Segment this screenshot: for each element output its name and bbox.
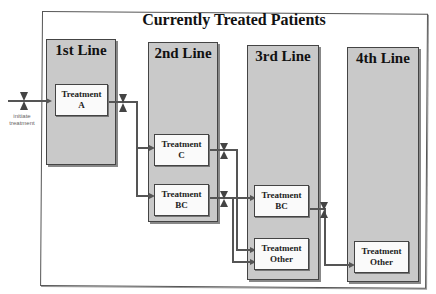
box-label: BC (155, 200, 208, 211)
box-label: Other (355, 257, 408, 268)
treatment-other-3rd-box: Treatment Other (254, 238, 309, 270)
treatment-bc-2nd-box: Treatment BC (154, 184, 209, 216)
box-label: A (56, 100, 107, 111)
box-label: Treatment (155, 139, 208, 150)
box-label: Treatment (355, 246, 408, 257)
box-label: Treatment (56, 89, 107, 100)
note-line: initiate (4, 113, 40, 120)
treatment-other-4th-box: Treatment Other (354, 241, 409, 273)
note-line: treatment (4, 120, 40, 127)
box-label: Other (255, 254, 308, 265)
box-label: C (155, 150, 208, 161)
box-label: Treatment (155, 189, 208, 200)
initiate-treatment-note: initiate treatment (4, 113, 40, 127)
treatment-bc-3rd-box: Treatment BC (254, 185, 309, 217)
treatment-a-box: Treatment A (55, 84, 108, 116)
box-label: Treatment (255, 243, 308, 254)
box-label: Treatment (255, 190, 308, 201)
box-label: BC (255, 201, 308, 212)
treatment-c-box: Treatment C (154, 134, 209, 166)
